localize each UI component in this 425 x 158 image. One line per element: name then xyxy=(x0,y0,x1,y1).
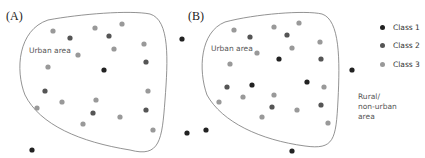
class-3-point xyxy=(141,41,146,46)
class-1-point xyxy=(249,82,254,87)
class-1-point xyxy=(304,79,309,84)
class-2-point xyxy=(143,107,148,112)
class-3-point xyxy=(93,97,98,102)
legend-label: Class 1 xyxy=(393,23,420,32)
class-3-point xyxy=(325,120,330,125)
rural-area-label: Rural/ non-urban area xyxy=(358,92,397,122)
class-2-point xyxy=(67,35,72,40)
class-1-point xyxy=(203,127,208,132)
class-2-point xyxy=(90,110,95,115)
class-1-dot-icon xyxy=(380,25,385,30)
class-3-point xyxy=(45,64,50,69)
class-2-point xyxy=(106,33,111,38)
class-1-point xyxy=(349,67,354,72)
class-3-point xyxy=(92,25,97,30)
urban-area-outline-b xyxy=(202,12,339,146)
class-3-point xyxy=(231,27,236,32)
class-3-point xyxy=(119,21,124,26)
class-3-point xyxy=(34,105,39,110)
class-3-point xyxy=(271,24,276,29)
class-3-point xyxy=(259,114,264,119)
class-2-point xyxy=(318,102,323,107)
class-3-point xyxy=(294,107,299,112)
class-3-point xyxy=(321,84,326,89)
legend-item-class-3: Class 3 xyxy=(380,60,420,69)
class-1-point xyxy=(101,67,106,72)
class-3-point xyxy=(227,61,232,66)
class-2-point xyxy=(247,34,252,39)
class-2-point xyxy=(224,84,229,89)
class-3-point xyxy=(240,94,245,99)
class-3-point xyxy=(59,99,64,104)
panel-label-a: (A) xyxy=(6,9,23,24)
class-1-point xyxy=(289,148,294,153)
class-3-point xyxy=(289,45,294,50)
class-1-point xyxy=(184,130,189,135)
class-2-point xyxy=(318,56,323,61)
class-1-point xyxy=(276,56,281,61)
class-3-point xyxy=(271,92,276,97)
urban-area-label-b: Urban area xyxy=(211,44,253,54)
class-2-point xyxy=(284,32,289,37)
legend-label: Class 3 xyxy=(393,60,420,69)
class-3-point xyxy=(80,121,85,126)
class-3-point xyxy=(50,28,55,33)
class-2-point xyxy=(269,104,274,109)
diagram-canvas xyxy=(0,0,425,158)
class-1-point xyxy=(179,36,184,41)
class-3-point xyxy=(296,20,301,25)
class-2-dot-icon xyxy=(380,43,385,48)
class-3-point xyxy=(145,88,150,93)
legend-item-class-2: Class 2 xyxy=(380,41,420,50)
class-3-point xyxy=(117,114,122,119)
class-3-point xyxy=(317,39,322,44)
urban-area-label-a: Urban area xyxy=(29,46,71,56)
class-1-point xyxy=(29,147,34,152)
class-3-point xyxy=(216,99,221,104)
class-3-point xyxy=(75,52,80,57)
urban-area-outline-a xyxy=(20,12,167,151)
class-3-point xyxy=(111,46,116,51)
panel-label-b: (B) xyxy=(188,9,204,24)
class-3-point xyxy=(150,127,155,132)
class-2-point xyxy=(42,88,47,93)
dots-panel-b xyxy=(179,20,354,153)
dots-panel-a xyxy=(29,21,155,152)
class-3-point xyxy=(254,50,259,55)
class-3-dot-icon xyxy=(380,62,385,67)
legend-item-class-1: Class 1 xyxy=(380,23,420,32)
legend-label: Class 2 xyxy=(393,41,420,50)
class-2-point xyxy=(143,59,148,64)
